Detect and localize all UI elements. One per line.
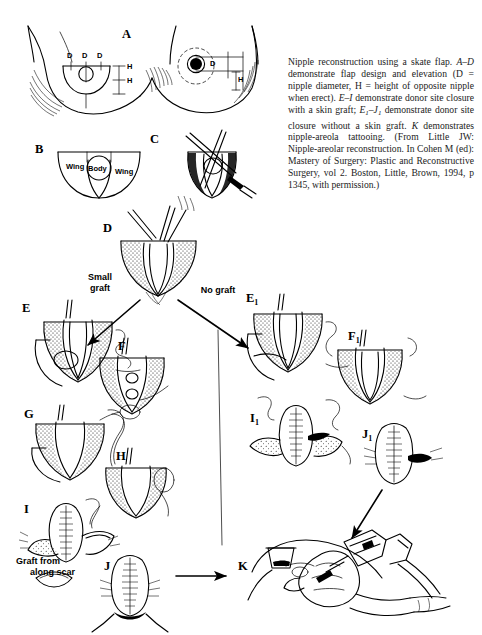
panel-label-e1: E1 [246, 292, 258, 307]
panel-label-f1-letter: F [348, 329, 356, 343]
panel-label-f1: F1 [348, 330, 360, 345]
panel-label-i1: I1 [250, 412, 259, 427]
panel-e1-artwork [247, 294, 348, 380]
panel-label-i1-sub: 1 [255, 418, 259, 427]
dimension-label-d2: D [82, 52, 87, 60]
panel-label-h: H [116, 450, 126, 463]
panel-label-d: D [103, 222, 112, 235]
panel-label-e1-sub: 1 [254, 298, 258, 307]
branch-label-small-graft-line1: Small [88, 272, 112, 282]
graft-note-line1: Graft from [16, 556, 60, 566]
panel-label-k: K [238, 560, 248, 573]
panel-a-artwork [28, 26, 258, 116]
panel-label-j1-sub: 1 [368, 434, 372, 443]
panel-label-e: E [22, 302, 30, 315]
branch-label-small-graft: Small graft [74, 272, 126, 293]
panel-c-artwork [178, 130, 256, 211]
dimension-label-h2: H [127, 77, 132, 85]
figure-caption: Nipple reconstruction using a skate flap… [288, 56, 474, 191]
caption-range-ei: E–I [339, 92, 353, 103]
panel-d-artwork [121, 206, 196, 305]
panel-label-f1-sub: 1 [356, 336, 360, 345]
region-label-wing-left: Wing [66, 163, 84, 171]
column-divider [218, 330, 222, 545]
region-label-body: Body [88, 165, 107, 173]
dimension-label-d-right: D [210, 60, 215, 68]
panel-k-artwork [248, 530, 450, 615]
branch-label-small-graft-line2: graft [90, 283, 110, 293]
dimension-label-h-right: H [238, 76, 243, 84]
panel-label-j1: J1 [362, 428, 372, 443]
arrow-no-graft [178, 300, 248, 348]
graft-note: Graft from along scar [16, 556, 112, 577]
region-label-wing-right: Wing [115, 168, 133, 176]
caption-range-ad: A–D [456, 56, 474, 67]
panel-label-i: I [24, 503, 29, 516]
arrow-j1-to-k [352, 490, 382, 538]
panel-label-a: A [122, 28, 131, 41]
dimension-label-d3: D [97, 52, 102, 60]
figure-canvas: A D D D H H D H B Wing Body Wing C D Sma… [0, 0, 482, 635]
panel-label-b: B [35, 143, 43, 156]
graft-note-line2: along scar [30, 567, 75, 578]
branch-label-no-graft: No graft [186, 285, 250, 296]
panel-label-g: G [24, 408, 34, 421]
panel-i1-artwork [250, 397, 351, 466]
panel-label-f: F [118, 340, 126, 353]
panel-h-artwork [90, 448, 174, 524]
panel-f-artwork [100, 338, 168, 420]
panel-j1-artwork [364, 424, 443, 485]
dimension-label-h1: H [127, 63, 132, 71]
dimension-label-d1: D [67, 52, 72, 60]
panel-label-c: C [150, 133, 159, 146]
caption-part1: Nipple reconstruction using a skate flap… [288, 56, 456, 67]
